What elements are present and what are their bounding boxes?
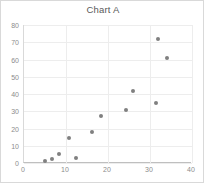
y-axis-tick-label: 50 [1, 73, 19, 80]
y-axis-tick-label: 80 [1, 22, 19, 29]
scatter-point [50, 157, 54, 161]
y-axis-tick-label: 30 [1, 108, 19, 115]
y-axis-tick-label: 10 [1, 142, 19, 149]
y-axis-tick-label: 20 [1, 125, 19, 132]
scatter-point [67, 136, 71, 140]
scatter-point [165, 56, 169, 60]
scatter-point [74, 156, 78, 160]
scatter-point [57, 152, 61, 156]
y-axis-tick-label: 40 [1, 91, 19, 98]
scatter-point [90, 130, 94, 134]
gridline-vertical [192, 25, 193, 163]
gridline-horizontal [24, 163, 192, 164]
scatter-point [131, 89, 135, 93]
scatter-point [156, 37, 160, 41]
plot-area [23, 25, 191, 163]
scatter-point [43, 159, 47, 163]
x-axis-tick-label: 20 [97, 166, 117, 173]
x-axis-tick-label: 0 [13, 166, 33, 173]
chart-container: Chart A 01020304050607080 010203040 [0, 0, 204, 183]
scatter-point [99, 114, 103, 118]
y-axis-tick-label: 60 [1, 56, 19, 63]
chart-title: Chart A [1, 4, 204, 15]
x-axis-tick-label: 40 [181, 166, 201, 173]
y-axis-tick-label: 70 [1, 39, 19, 46]
x-axis-tick-label: 30 [139, 166, 159, 173]
scatter-point [154, 101, 158, 105]
x-axis-tick-label: 10 [55, 166, 75, 173]
scatter-point [124, 108, 128, 112]
scatter-points-layer [24, 25, 192, 163]
